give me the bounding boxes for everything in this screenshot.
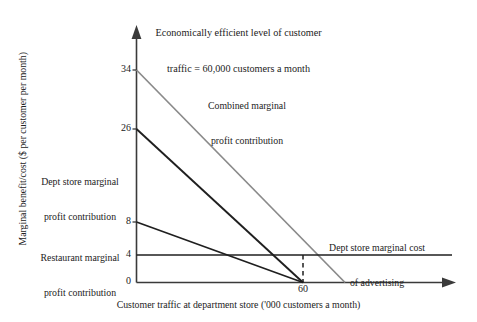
annotation-dept-store-marginal-cost: Dept store marginal cost of advertising <box>303 219 451 311</box>
y-tick-label-26: 26 <box>103 122 131 134</box>
annotation-mc-line-2: of advertising <box>303 277 451 289</box>
annotation-combined-line-2: profit contribution <box>181 135 313 147</box>
annotation-combined-line-1: Combined marginal <box>181 100 313 112</box>
annotation-dept-line-1: Dept store marginal <box>17 176 143 188</box>
annotation-restaurant-line-1: Restaurant marginal <box>17 252 143 264</box>
annotation-combined-marginal-profit: Combined marginal profit contribution <box>181 77 313 169</box>
annotation-restaurant-marginal-profit: Restaurant marginal profit contribution <box>17 229 143 321</box>
annotation-mc-line-1: Dept store marginal cost <box>303 242 451 254</box>
annotation-dept-line-2: profit contribution <box>17 211 143 223</box>
y-tick-label-34: 34 <box>103 63 131 75</box>
annotation-restaurant-line-2: profit contribution <box>17 287 143 299</box>
chart-figure: Economically efficient level of customer… <box>0 0 477 322</box>
chart-title-line-1: Economically efficient level of customer <box>0 27 477 39</box>
chart-title-line-2: traffic = 60,000 customers a month <box>0 63 477 75</box>
